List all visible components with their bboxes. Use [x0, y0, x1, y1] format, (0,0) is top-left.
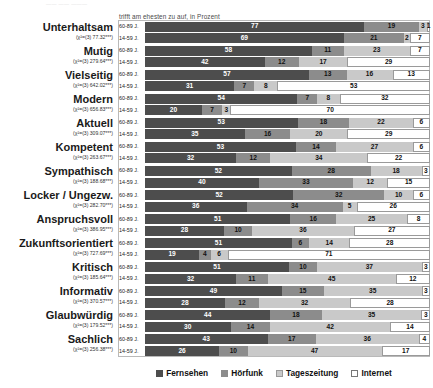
bar-row: 60-89 J.5232106: [118, 190, 430, 201]
category-name: Informativ: [0, 286, 113, 297]
stacked-bar: 5116258: [145, 214, 430, 224]
bar-segment-hörfunk: 10: [224, 226, 252, 236]
bar-value-label: 12: [366, 179, 373, 186]
bar-segment-hörfunk: 7: [234, 81, 254, 91]
bar-segment-internet: 32: [340, 94, 430, 104]
bar-segment-internet: 28: [350, 298, 430, 308]
bar-segment-fernsehen: 52: [145, 190, 293, 200]
bar-segment-fernsehen: 49: [145, 286, 282, 296]
bar-segment-tageszeitung: 10: [384, 190, 413, 200]
category-label-3: Vielseitig(χ²=(3) 642.02***): [0, 70, 113, 89]
bar-segment-tageszeitung: 3: [222, 105, 231, 115]
category-label-1: Unterhaltsam(χ²=(3) 77.32***): [0, 22, 113, 41]
chi-square-stat: (χ²=(3) 282.70***): [0, 202, 113, 209]
stacked-bar-chart: —— —— ——— trifft am ehesten zu auf, in P…: [0, 0, 433, 388]
bar-segment-tageszeitung: 27: [336, 142, 413, 152]
bar-value-label: 18: [292, 312, 299, 319]
age-group-label: 14-59 J.: [119, 177, 145, 188]
age-group-label: 14-59 J.: [119, 201, 145, 212]
age-group-label: 14-59 J.: [119, 297, 145, 308]
bar-value-label: 29: [385, 131, 392, 138]
bar-segment-internet: 17: [382, 346, 430, 356]
bar-row: 60-89 J.547832: [118, 93, 430, 104]
category-name: Vielseitig: [0, 70, 113, 81]
age-group-label: 14-59 J.: [119, 249, 145, 260]
bar-value-label: 43: [203, 336, 210, 343]
bar-segment-fernsehen: 57: [145, 70, 309, 80]
bar-segment-tageszeitung: 14: [309, 238, 349, 248]
bar-segment-internet: 1: [427, 22, 430, 32]
bar-value-label: 28: [181, 227, 188, 234]
bar-row: 14-59 J.26104717: [118, 346, 430, 357]
stacked-bar: 4317364: [145, 334, 430, 344]
stacked-bar: 194671: [145, 250, 430, 260]
bar-value-label: 3: [424, 312, 428, 319]
bar-segment-fernsehen: 28: [145, 298, 225, 308]
bar-segment-tageszeitung: 42: [270, 322, 390, 332]
bar-segment-fernsehen: 42: [145, 57, 265, 67]
bar-segment-hörfunk: 16: [245, 129, 291, 139]
bar-value-label: 47: [311, 348, 318, 355]
bar-row: 14-59 J.30144214: [118, 321, 430, 332]
chart-legend: FernsehenHörfunkTageszeitungInternet: [118, 364, 430, 382]
bar-segment-hörfunk: 14: [231, 322, 271, 332]
category-name: Aktuell: [0, 118, 113, 129]
bar-value-label: 3: [424, 264, 428, 271]
bar-value-label: 40: [198, 179, 205, 186]
bar-value-label: 37: [366, 264, 373, 271]
legend-swatch-icon: [351, 370, 358, 377]
category-label-11: Kritisch(χ²=(3) 185.64***): [0, 262, 113, 281]
bar-segment-hörfunk: 16: [290, 214, 336, 224]
bar-row: 60-89 J.5228183: [118, 165, 430, 176]
legend-label: Hörfunk: [231, 368, 263, 378]
stacked-bar: 26104717: [145, 346, 430, 356]
bar-value-label: 53: [350, 83, 357, 90]
bar-segment-internet: 3: [421, 310, 430, 320]
legend-item-fernsehen[interactable]: Fernsehen: [156, 368, 208, 378]
bar-segment-hörfunk: 14: [296, 142, 336, 152]
bar-value-label: 10: [230, 348, 237, 355]
bar-segment-hörfunk: 11: [312, 46, 344, 56]
bar-value-label: 4: [422, 336, 426, 343]
category-label-7: Sympathisch(χ²=(3) 188.68***): [0, 166, 113, 185]
bar-row: 60-89 J.5161428: [118, 238, 430, 249]
age-group-label: 60-89 J.: [119, 117, 145, 128]
legend-item-hörfunk[interactable]: Hörfunk: [221, 368, 263, 378]
bar-segment-fernsehen: 28: [145, 226, 224, 236]
bar-value-label: 1: [427, 23, 431, 30]
bar-value-label: 14: [312, 144, 319, 151]
bar-segment-fernsehen: 26: [145, 346, 219, 356]
bar-segment-fernsehen: 58: [145, 46, 312, 56]
category-label-4: Modern(χ²=(3) 656.83***): [0, 94, 113, 113]
bar-segment-tageszeitung: 47: [248, 346, 382, 356]
bar-row: 60-89 J.5110373: [118, 262, 430, 273]
bar-segment-internet: 29: [347, 129, 430, 139]
bar-row: 14-59 J.3634526: [118, 201, 430, 212]
bar-value-label: 52: [215, 192, 222, 199]
bar-segment-hörfunk: 10: [219, 346, 248, 356]
bar-value-label: 18: [320, 119, 327, 126]
stacked-bar: 4915353: [145, 286, 430, 296]
bar-segment-tageszeitung: 20: [290, 129, 347, 139]
chi-square-stat: (χ²=(3) 185.64***): [0, 274, 113, 281]
bar-value-label: 16: [264, 131, 271, 138]
bar-value-label: 30: [184, 324, 191, 331]
bar-segment-tageszeitung: 22: [349, 118, 412, 128]
bar-value-label: 58: [225, 47, 232, 54]
legend-item-tageszeitung[interactable]: Tageszeitung: [276, 368, 338, 378]
legend-item-internet[interactable]: Internet: [351, 368, 391, 378]
bar-segment-fernsehen: 30: [145, 322, 231, 332]
bar-value-label: 10: [299, 264, 306, 271]
chi-square-stat: (χ²=(3) 263.67***): [0, 154, 113, 161]
bar-value-label: 36: [364, 336, 371, 343]
bar-segment-hörfunk: 13: [309, 70, 346, 80]
bar-segment-tageszeitung: 35: [322, 310, 422, 320]
bar-value-label: 16: [309, 216, 316, 223]
bar-segment-tageszeitung: 5: [343, 202, 357, 212]
bar-value-label: 14: [247, 324, 254, 331]
bar-segment-fernsehen: 69: [145, 33, 344, 43]
bar-segment-fernsehen: 32: [145, 153, 236, 163]
bar-value-label: 26: [178, 348, 185, 355]
bar-segment-fernsehen: 54: [145, 94, 297, 104]
bar-value-label: 5: [348, 203, 352, 210]
